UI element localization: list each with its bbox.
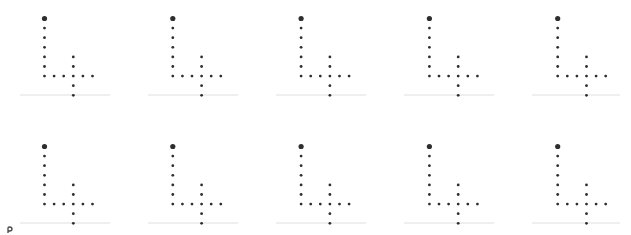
dot (72, 184, 75, 187)
dot-figure-r2-c3 (299, 144, 351, 225)
dot (171, 56, 174, 59)
dot (300, 174, 303, 177)
dot (181, 203, 184, 206)
dot (200, 184, 203, 187)
dot (556, 36, 559, 39)
dot (428, 184, 431, 187)
dot (556, 155, 559, 158)
dot (62, 203, 65, 206)
dot (43, 46, 46, 49)
dot-figure-r1-c1 (42, 16, 94, 97)
dot (200, 65, 203, 68)
dot (219, 203, 222, 206)
dot (300, 75, 303, 78)
dot (300, 193, 303, 196)
dot (457, 184, 460, 187)
dot (171, 155, 174, 158)
dot (556, 174, 559, 177)
dot (428, 203, 431, 206)
dot (585, 94, 588, 97)
dot (191, 75, 194, 78)
dot (43, 184, 46, 187)
dot (556, 46, 559, 49)
dot (91, 203, 94, 206)
dot (566, 203, 569, 206)
dot (43, 193, 46, 196)
dot (171, 27, 174, 30)
dot (556, 184, 559, 187)
dot (585, 56, 588, 59)
dot (72, 75, 75, 78)
dot (457, 203, 460, 206)
dot (309, 75, 312, 78)
dot (457, 94, 460, 97)
dot (43, 164, 46, 167)
dot (604, 203, 607, 206)
dot (43, 27, 46, 30)
dot (428, 56, 431, 59)
dot (171, 193, 174, 196)
dot (43, 203, 46, 206)
dot-figure-r2-c2 (170, 144, 222, 225)
dot (171, 164, 174, 167)
dot (428, 46, 431, 49)
anchor-dot (299, 144, 304, 149)
dot (72, 56, 75, 59)
dot (438, 203, 441, 206)
dot (585, 184, 588, 187)
dot (329, 65, 332, 68)
dot-figure-r1-c4 (427, 16, 479, 97)
dot (171, 65, 174, 68)
pointer-fragment-icon (6, 226, 14, 234)
dot (53, 75, 56, 78)
dot (309, 203, 312, 206)
dot (171, 203, 174, 206)
dot (476, 203, 479, 206)
anchor-dot (42, 16, 47, 21)
dot (329, 212, 332, 215)
dot (585, 212, 588, 215)
dot (338, 75, 341, 78)
dot (348, 203, 351, 206)
dot-figure-r2-c1 (42, 144, 94, 225)
dot (466, 203, 469, 206)
dot (428, 65, 431, 68)
dot (457, 65, 460, 68)
dot (595, 75, 598, 78)
anchor-dot (170, 144, 175, 149)
anchor-dot (555, 144, 560, 149)
dot (457, 193, 460, 196)
dot (43, 65, 46, 68)
dot (447, 203, 450, 206)
dot (428, 36, 431, 39)
dot (319, 203, 322, 206)
dot (348, 75, 351, 78)
dot (457, 212, 460, 215)
dot (72, 203, 75, 206)
dot (82, 203, 85, 206)
anchor-dot (427, 144, 432, 149)
dot (200, 56, 203, 59)
dot (428, 27, 431, 30)
dot (300, 155, 303, 158)
dot (171, 174, 174, 177)
dot (428, 164, 431, 167)
dot (300, 203, 303, 206)
dot (576, 75, 579, 78)
dot (62, 75, 65, 78)
dot (585, 84, 588, 87)
dot-pattern-grid (0, 0, 631, 235)
dot (300, 56, 303, 59)
dot (556, 65, 559, 68)
dot (181, 75, 184, 78)
dot (476, 75, 479, 78)
dot (43, 36, 46, 39)
dot (447, 75, 450, 78)
dot (585, 222, 588, 225)
dot (72, 222, 75, 225)
dot (576, 203, 579, 206)
dot-figure-r1-c3 (299, 16, 351, 97)
dot (43, 56, 46, 59)
dot (72, 212, 75, 215)
anchor-dot (555, 16, 560, 21)
